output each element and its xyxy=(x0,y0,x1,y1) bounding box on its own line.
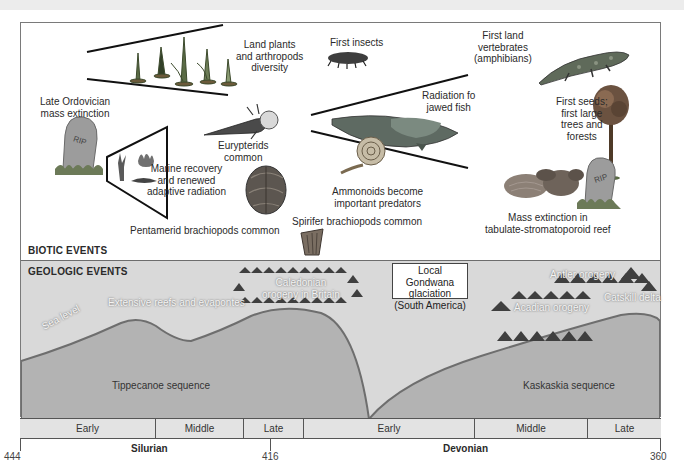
insect-icon xyxy=(328,52,368,69)
label-land-plants: Land plantsand arthropodsdiversity xyxy=(236,39,303,74)
pentamerid-icon xyxy=(246,166,286,214)
label-marine-recovery: Marine recoveryand renewedadaptive radia… xyxy=(147,163,226,198)
amphibian-icon xyxy=(539,52,629,85)
label-extensive-reefs: Extensive reefs and evapontes xyxy=(108,297,245,309)
label-tippecanoe-sequence: Tippecanoe sequence xyxy=(112,380,210,392)
land-plants-icon xyxy=(130,37,237,86)
tick-360 xyxy=(660,439,661,451)
label-ammonoids: Ammonoids becomeimportant predators xyxy=(332,186,423,209)
epoch-devonian-early: Early xyxy=(304,419,475,438)
epoch-silurian-late: Late xyxy=(244,419,304,438)
label-gondwana-glaciation: Local Gondwanaglaciation(South America) xyxy=(392,263,468,299)
tombstone-icon: RIP xyxy=(55,117,103,175)
age-label-416: 416 xyxy=(262,451,279,462)
label-pentamerid: Pentamerid brachiopods common xyxy=(130,225,280,237)
epoch-silurian-middle: Middle xyxy=(156,419,244,438)
tick-416 xyxy=(270,439,271,451)
label-acadian-orogeny: Acadian orogeny xyxy=(514,302,589,314)
label-kaskaskia-sequence: Kaskaskia sequence xyxy=(523,380,615,392)
period-silurian: Silurian xyxy=(131,443,168,454)
period-devonian: Devonian xyxy=(443,443,488,454)
label-first-land-vertebrates: First landvertebrates(amphibians) xyxy=(474,30,532,65)
top-band xyxy=(0,0,684,10)
label-antler-orogeny: Antler orogeny xyxy=(550,269,615,281)
kaskaskia-sequence-area xyxy=(369,314,660,419)
label-caledonian-orogeny: Caledonianorogeny in Britain xyxy=(262,277,340,300)
geologic-illustrations xyxy=(21,261,660,419)
label-reef-extinction: Mass extinction intabulate-stromatoporoi… xyxy=(485,212,611,235)
tombstone-icon: RIP xyxy=(577,158,621,209)
tippecanoe-sequence-area xyxy=(21,309,369,419)
epoch-timeline: Early Middle Late Early Middle Late xyxy=(20,418,661,439)
spirifer-icon xyxy=(301,229,323,255)
epoch-devonian-late: Late xyxy=(588,419,661,438)
geologic-events-panel xyxy=(21,260,660,419)
section-title-geologic: GEOLOGIC EVENTS xyxy=(28,266,128,277)
label-first-seeds: First seeds;first largetrees andforests xyxy=(556,96,608,142)
label-spirifer: Spirifer brachiopods common xyxy=(292,216,422,228)
tick-444 xyxy=(20,439,21,451)
eurypterid-icon xyxy=(204,104,278,139)
label-late-ordovician: Late Ordovicianmass extinction xyxy=(40,96,110,119)
epoch-devonian-middle: Middle xyxy=(475,419,588,438)
label-catskill-delta: Catskill delta xyxy=(604,292,661,304)
label-jawed-fish: Radiation fojawed fish xyxy=(422,90,475,113)
label-first-insects: First insects xyxy=(330,37,383,49)
reef-icon xyxy=(504,169,584,198)
jawed-fish-icon xyxy=(332,116,458,151)
age-label-444: 444 xyxy=(4,451,21,462)
epoch-silurian-early: Early xyxy=(20,419,156,438)
label-eurypterids: Eurypteridscommon xyxy=(218,140,269,163)
age-label-360: 360 xyxy=(650,451,667,462)
section-title-biotic: BIOTIC EVENTS xyxy=(28,245,107,256)
ammonoid-icon xyxy=(341,137,385,173)
